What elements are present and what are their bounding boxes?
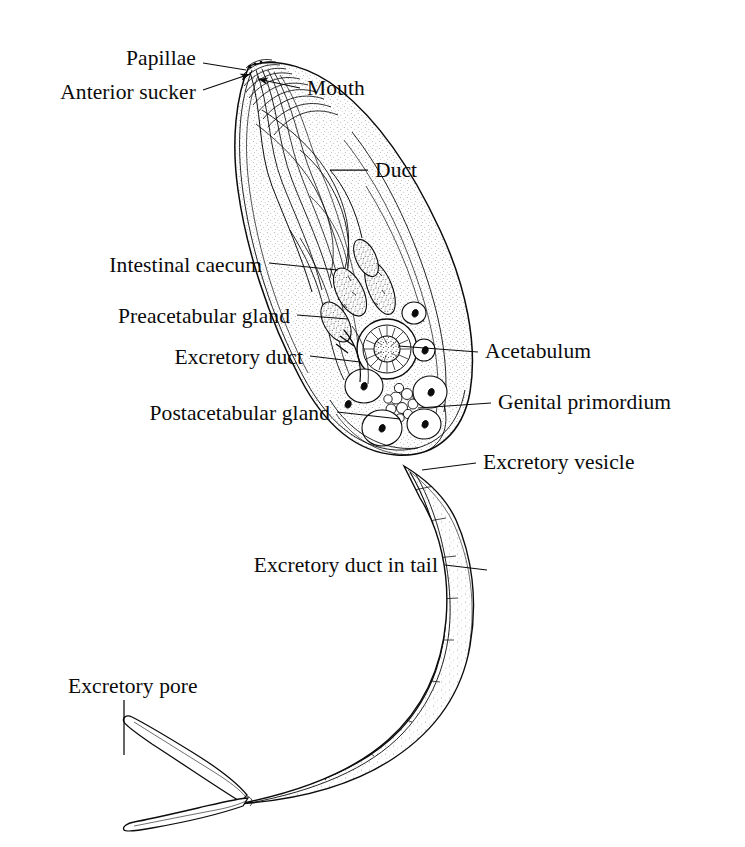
cercaria-drawing — [0, 0, 745, 847]
cercaria-body — [235, 59, 473, 455]
label-mouth: Mouth — [307, 78, 365, 100]
label-postacetabular-gland: Postacetabular gland — [149, 403, 330, 425]
leader-excretory-vesicle — [422, 463, 476, 470]
label-anterior-sucker: Anterior sucker — [60, 82, 196, 104]
label-preacetabular-gland: Preacetabular gland — [118, 306, 290, 328]
figure-canvas: PapillaeAnterior suckerMouthDuctIntestin… — [0, 0, 745, 847]
label-excretory-pore: Excretory pore — [68, 676, 198, 698]
label-papillae: Papillae — [126, 48, 196, 70]
label-excretory-duct-tail: Excretory duct in tail — [254, 555, 438, 577]
tail-furcae — [123, 716, 248, 831]
label-excretory-vesicle: Excretory vesicle — [483, 452, 635, 474]
label-duct: Duct — [375, 160, 417, 182]
label-excretory-duct: Excretory duct — [174, 347, 303, 369]
leader-papillae — [203, 63, 246, 70]
label-intestinal-caecum: Intestinal caecum — [109, 255, 262, 277]
label-genital-primordium: Genital primordium — [498, 392, 671, 414]
cercaria-tail — [123, 466, 473, 831]
label-acetabulum: Acetabulum — [485, 341, 591, 363]
